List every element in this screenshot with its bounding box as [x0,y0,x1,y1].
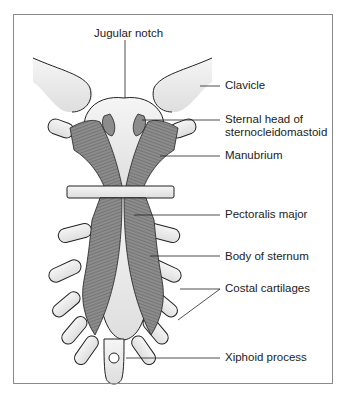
figure-border-full [13,14,333,134]
